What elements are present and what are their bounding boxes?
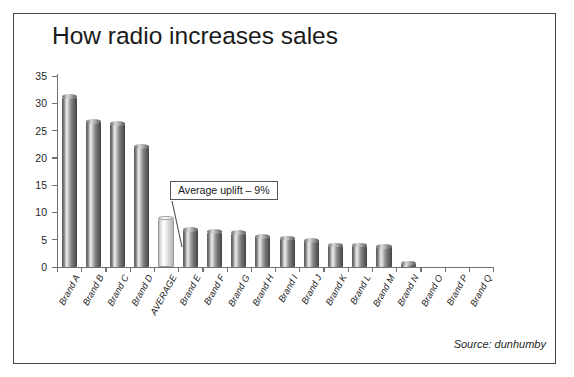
bar-body — [255, 236, 270, 267]
x-tick — [130, 268, 131, 272]
bar-body — [134, 146, 149, 267]
y-tick — [52, 239, 57, 240]
x-tick-label: Brand K — [323, 273, 348, 307]
x-tick — [178, 268, 179, 272]
x-tick-label: Brand M — [371, 273, 397, 309]
bar-body — [110, 123, 125, 267]
source-credit: Source: dunhumby — [454, 338, 546, 350]
x-tick-label: Brand A — [57, 273, 82, 307]
bar-body — [158, 218, 173, 267]
y-tick — [52, 157, 57, 158]
x-tick — [81, 268, 82, 272]
bar-brand-g — [231, 233, 246, 267]
bar-body — [376, 246, 391, 267]
bar-cap — [304, 238, 319, 243]
x-tick — [105, 268, 106, 272]
bar-brand-a — [62, 97, 77, 267]
x-tick-label: Brand G — [226, 273, 252, 308]
x-tick — [299, 268, 300, 272]
bar-body — [183, 229, 198, 267]
y-tick — [52, 130, 57, 131]
x-tick-label: Brand O — [420, 273, 446, 308]
y-tick — [52, 76, 57, 77]
bar-body — [328, 245, 343, 267]
bar-body — [207, 232, 222, 267]
slide-canvas: How radio increases sales 05101520253035… — [0, 0, 574, 377]
bar-brand-n — [401, 263, 416, 267]
bar-body — [304, 240, 319, 267]
y-tick — [52, 185, 57, 186]
x-tick — [445, 268, 446, 272]
y-tick-label: 5 — [0, 233, 47, 245]
y-tick-label: 30 — [0, 97, 47, 109]
x-tick-label: Brand F — [202, 273, 227, 307]
x-tick — [202, 268, 203, 272]
x-tick-label: Brand C — [105, 273, 130, 308]
x-tick-label: Brand L — [348, 273, 373, 306]
y-tick-label: 10 — [0, 206, 47, 218]
bar-cap — [86, 119, 101, 124]
x-tick-label: Brand H — [250, 273, 275, 308]
bar-body — [62, 97, 77, 267]
x-tick — [57, 268, 58, 272]
x-tick — [372, 268, 373, 272]
x-tick-label: Brand J — [300, 273, 324, 306]
x-tick — [396, 268, 397, 272]
bar-brand-h — [255, 236, 270, 267]
bar-cap — [62, 94, 77, 99]
y-tick-label: 35 — [0, 70, 47, 82]
bar-cap — [110, 121, 125, 126]
x-tick — [348, 268, 349, 272]
bar-cap — [207, 229, 222, 234]
bar-brand-c — [110, 123, 125, 267]
bar-cap — [255, 234, 270, 239]
bar-brand-d — [134, 146, 149, 267]
x-tick — [469, 268, 470, 272]
bar-brand-j — [304, 240, 319, 267]
bar-brand-m — [376, 246, 391, 267]
bar-brand-l — [352, 245, 367, 267]
bar-body — [231, 233, 246, 267]
y-tick — [52, 103, 57, 104]
x-tick-label: Brand E — [178, 273, 203, 307]
bar-body — [280, 238, 295, 267]
bar-chart-plot: 05101520253035 Brand ABrand BBrand CBran… — [0, 0, 574, 377]
bar-brand-e — [183, 229, 198, 267]
x-tick — [154, 268, 155, 272]
x-tick — [420, 268, 421, 272]
x-tick-label: Brand D — [129, 273, 154, 308]
y-tick-label: 0 — [0, 261, 47, 273]
y-tick — [52, 212, 57, 213]
x-tick-label: Brand I — [277, 273, 300, 304]
y-tick-label: 25 — [0, 124, 47, 136]
y-tick-label: 20 — [0, 151, 47, 163]
bar-body — [352, 245, 367, 267]
y-axis-line — [57, 74, 58, 268]
bar-cap — [134, 144, 149, 149]
x-tick — [493, 268, 494, 272]
bar-body — [86, 121, 101, 267]
bar-brand-i — [280, 238, 295, 267]
bar-cap — [231, 230, 246, 235]
x-tick — [275, 268, 276, 272]
bar-cap — [183, 227, 198, 232]
x-tick — [251, 268, 252, 272]
bar-cap — [158, 216, 173, 221]
bar-brand-f — [207, 232, 222, 267]
annotation-average-uplift: Average uplift – 9% — [170, 181, 278, 200]
bar-cap — [376, 244, 391, 249]
x-tick-label: Brand P — [444, 273, 469, 307]
bar-brand-k — [328, 245, 343, 267]
x-tick — [227, 268, 228, 272]
x-tick-label: Brand Q — [468, 273, 494, 308]
bar-average — [158, 218, 173, 267]
y-tick-label: 15 — [0, 179, 47, 191]
x-tick-label: Brand N — [396, 273, 421, 308]
x-tick-label: Brand B — [81, 273, 106, 307]
x-tick — [323, 268, 324, 272]
bar-brand-b — [86, 121, 101, 267]
